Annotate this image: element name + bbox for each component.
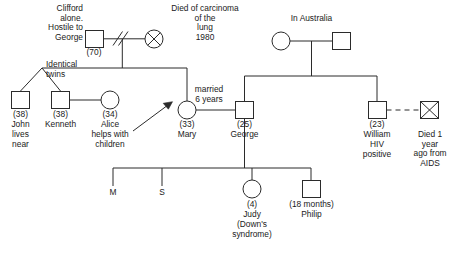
label-philip-name: Philip: [301, 210, 321, 220]
symbol-george-square: [236, 102, 254, 119]
label-in-australia: In Australia: [291, 14, 332, 24]
label-george-name: George: [231, 130, 259, 140]
label-mary-name: Mary: [178, 130, 197, 140]
genogram-canvas: Clifford alone. Hostile to George (70) D…: [0, 0, 467, 255]
symbol-australia-mother-circle: [272, 32, 290, 50]
label-clifford-note: Clifford alone. Hostile to George: [48, 4, 83, 42]
label-identical-twins: Identical twins: [46, 60, 77, 79]
label-judy-note: (Down's syndrome): [232, 220, 272, 239]
label-william-note: HIV positive: [363, 140, 391, 159]
label-clifford-age: (70): [87, 48, 102, 58]
label-grandmother-note: Died of carcinoma of the lung 1980: [171, 4, 239, 42]
symbol-john-square: [12, 92, 30, 109]
label-married-6-years: married 6 years: [195, 85, 223, 104]
symbol-alice-circle: [101, 91, 119, 109]
symbol-judy-circle: [243, 180, 261, 198]
label-child-s: S: [159, 188, 165, 198]
twin-apex-leg-john: [21, 68, 43, 91]
symbol-philip-square: [303, 181, 321, 198]
symbol-william-square: [369, 102, 387, 119]
symbol-australia-father-square: [333, 33, 351, 50]
label-partner-deceased-note: Died 1 year ago from AIDS: [412, 130, 449, 168]
symbol-mary-circle: [178, 101, 196, 119]
label-alice-note: helps with children: [91, 130, 128, 149]
label-child-m: M: [110, 188, 117, 198]
label-john-note: lives near: [12, 130, 29, 149]
label-kenneth-name: Kenneth: [45, 120, 76, 130]
symbol-kenneth-square: [52, 92, 70, 109]
symbol-clifford-square: [86, 31, 104, 48]
index-arrow-shaft: [133, 104, 170, 132]
